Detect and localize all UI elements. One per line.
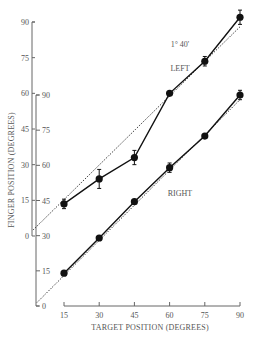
inner-y-axis: 0153045607590 — [36, 91, 50, 311]
annotation-left: LEFT — [170, 64, 189, 73]
inner-y-tick-label: 0 — [42, 302, 46, 311]
outer-y-tick-label: 75 — [21, 54, 29, 63]
series-layer — [33, 10, 244, 302]
right-series-point — [131, 198, 138, 205]
left-series-line — [64, 17, 240, 204]
left-series-point — [201, 58, 208, 65]
x-tick-label: 30 — [95, 311, 103, 320]
outer-y-tick-label: 0 — [25, 232, 29, 241]
inner-y-tick-label: 45 — [42, 197, 50, 206]
left-series-point — [131, 154, 138, 161]
x-tick-label: 75 — [201, 311, 209, 320]
outer-y-tick-label: 30 — [21, 161, 29, 170]
inner-y-tick-label: 15 — [42, 267, 50, 276]
chart: 0153045607590 0153045607590 153045607590… — [0, 0, 260, 339]
right-series-point — [96, 234, 103, 241]
right-series-point — [166, 164, 173, 171]
left-series-point — [60, 200, 67, 207]
right-series-point — [201, 132, 208, 139]
inner-y-tick-label: 30 — [42, 232, 50, 241]
x-tick-label: 15 — [60, 311, 68, 320]
left-series-point — [236, 14, 243, 21]
inner-y-tick-label: 75 — [42, 126, 50, 135]
x-tick-label: 60 — [166, 311, 174, 320]
outer-y-tick-label: 15 — [21, 196, 29, 205]
annotation-angle: 1° 40' — [171, 40, 190, 49]
right-series-line — [64, 95, 240, 273]
left-series-point — [96, 175, 103, 182]
outer-y-tick-label: 90 — [21, 18, 29, 27]
outer-y-tick-label: 60 — [21, 89, 29, 98]
right-series-point — [236, 91, 243, 98]
annotation-right: RIGHT — [168, 189, 193, 198]
outer-y-tick-label: 45 — [21, 125, 29, 134]
right-series-point — [60, 270, 67, 277]
inner-y-tick-label: 90 — [42, 91, 50, 100]
x-tick-label: 45 — [130, 311, 138, 320]
outer-y-axis: 0153045607590 — [21, 18, 35, 241]
x-axis: 153045607590 — [60, 302, 244, 320]
inner-y-tick-label: 60 — [42, 161, 50, 170]
left-series-point — [166, 90, 173, 97]
x-tick-label: 90 — [236, 311, 244, 320]
y-axis-title: FINGER POSITION (DEGREES) — [7, 112, 16, 228]
x-axis-title: TARGET POSITION (DEGREES) — [91, 323, 209, 332]
